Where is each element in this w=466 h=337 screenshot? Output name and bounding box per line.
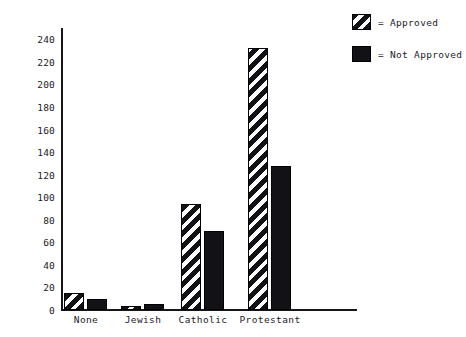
- x-tick-label-jewish: Jewish: [125, 314, 162, 325]
- y-tick-label: 100: [37, 192, 55, 203]
- plot-area: [62, 28, 320, 310]
- legend-item-not-approved: = Not Approved: [352, 46, 464, 62]
- legend-label-approved: = Approved: [378, 17, 438, 28]
- y-tick-label: 140: [37, 147, 55, 158]
- bar-protestant-not-approved: [271, 166, 291, 310]
- legend-swatch-solid-icon: [352, 46, 371, 62]
- bar-none-approved: [64, 293, 84, 310]
- bar-protestant-approved: [248, 48, 268, 310]
- y-tick-label: 200: [37, 79, 55, 90]
- y-tick-label: 60: [43, 237, 55, 248]
- y-tick-label: 20: [43, 282, 55, 293]
- chart-legend: = Approved = Not Approved: [352, 14, 464, 78]
- bar-jewish-not-approved: [144, 304, 164, 310]
- legend-item-approved: = Approved: [352, 14, 464, 30]
- y-tick-label: 80: [43, 214, 55, 225]
- x-tick-label-none: None: [74, 314, 98, 325]
- y-tick-label: 40: [43, 259, 55, 270]
- y-tick-label: 220: [37, 56, 55, 67]
- legend-label-not-approved: = Not Approved: [378, 49, 462, 60]
- y-tick-label: 240: [37, 34, 55, 45]
- bar-catholic-not-approved: [204, 231, 224, 310]
- legend-swatch-hatch-icon: [352, 14, 371, 30]
- x-tick-label-protestant: Protestant: [239, 314, 300, 325]
- y-tick-label: 160: [37, 124, 55, 135]
- bar-jewish-approved: [121, 306, 141, 311]
- y-tick-label: 0: [49, 305, 55, 316]
- y-tick-label: 120: [37, 169, 55, 180]
- y-tick-label: 180: [37, 101, 55, 112]
- bar-catholic-approved: [181, 204, 201, 310]
- y-axis-tick-labels: 020406080100120140160180200220240: [0, 0, 55, 337]
- bar-chart: 020406080100120140160180200220240 NoneJe…: [0, 0, 466, 337]
- x-tick-label-catholic: Catholic: [179, 314, 228, 325]
- bar-none-not-approved: [87, 299, 107, 310]
